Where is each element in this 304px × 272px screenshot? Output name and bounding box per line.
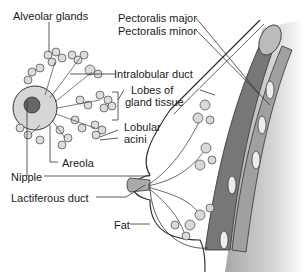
label-alveolar-glands: Alveolar glands — [13, 10, 88, 22]
label-lobular-line2: acini — [124, 133, 147, 145]
nipple-shape — [24, 97, 40, 113]
breast-anatomy-diagram: Alveolar glands Pectoralis major Pectora… — [0, 0, 304, 272]
anatomy-illustration — [0, 0, 304, 272]
label-lactiferous-duct: Lactiferous duct — [11, 192, 89, 204]
label-areola: Areola — [62, 157, 94, 169]
label-lobular-line1: Lobular — [124, 121, 161, 133]
label-intralobular-duct: Intralobular duct — [114, 68, 193, 80]
label-fat: Fat — [114, 219, 130, 231]
label-pectoralis-minor: Pectoralis minor — [118, 25, 197, 37]
label-lobes-line2: gland tissue — [125, 96, 184, 108]
label-pectoralis-major: Pectoralis major — [118, 12, 197, 24]
label-nipple: Nipple — [11, 171, 42, 183]
label-lobes-line1: Lobes of — [131, 84, 173, 96]
